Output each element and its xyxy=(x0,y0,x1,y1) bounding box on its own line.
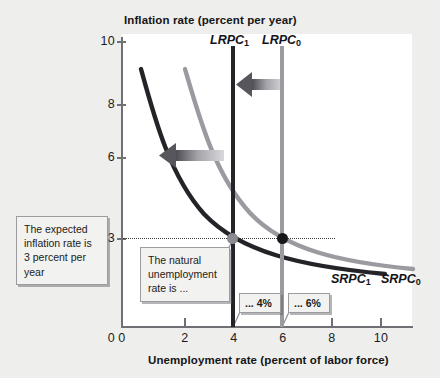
srpc1-curve xyxy=(141,69,385,274)
srpc0-curve xyxy=(185,69,413,269)
figure-root: Inflation rate (percent per year) Unempl… xyxy=(0,0,440,378)
callout-natural-rate: The natural unemployment rate is ... xyxy=(140,247,230,302)
srpc1-label-sub: 1 xyxy=(366,277,371,287)
lrpc1-label-sub: 1 xyxy=(244,38,249,48)
equilibrium-dot-new xyxy=(227,233,238,244)
lrpc1-label-text: LRPC xyxy=(210,33,244,47)
equilibrium-dot-original xyxy=(277,233,288,244)
lrpc0-line xyxy=(280,46,284,327)
lrpc0-label-text: LRPC xyxy=(262,33,296,47)
callout-rate-4-text: ... 4% xyxy=(245,297,272,309)
lrpc1-label: LRPC1 xyxy=(210,33,249,47)
lrpc0-label: LRPC0 xyxy=(262,33,301,47)
callout-rate-6: ... 6% xyxy=(288,293,330,313)
srpc0-label-sub: 0 xyxy=(416,277,421,287)
srpc-shift-arrow xyxy=(159,143,224,168)
callout-rate-6-text: ... 6% xyxy=(294,297,321,309)
srpc0-label: SRPC0 xyxy=(381,272,421,286)
callout-expected-inflation: The expected inflation rate is 3 percent… xyxy=(16,216,108,285)
lrpc1-line xyxy=(231,46,235,327)
lrpc0-label-sub: 0 xyxy=(296,38,301,48)
callout-rate-4: ... 4% xyxy=(239,293,281,313)
srpc1-label-text: SRPC xyxy=(331,272,366,286)
curves-layer xyxy=(0,0,440,378)
lrpc-shift-arrow xyxy=(236,72,284,97)
srpc1-label: SRPC1 xyxy=(331,272,371,286)
srpc0-label-text: SRPC xyxy=(381,272,416,286)
